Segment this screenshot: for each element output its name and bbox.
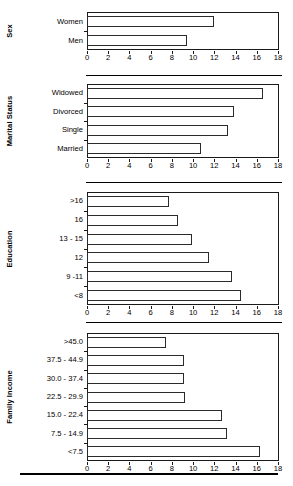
panel-separator-rule <box>86 182 282 183</box>
bar <box>87 196 169 207</box>
x-axis-tick-label: 8 <box>162 162 182 170</box>
bar <box>87 392 185 403</box>
bar <box>87 234 192 245</box>
x-axis-tick-label: 14 <box>226 54 246 62</box>
category-label: 13 - 15 <box>0 235 83 243</box>
bar <box>87 35 187 46</box>
x-axis-tick-label: 2 <box>98 309 118 317</box>
category-label: 37.5 - 44.9 <box>0 356 83 364</box>
category-label: 7.5 - 14.9 <box>0 430 83 438</box>
bar <box>87 125 228 136</box>
panel-separator-rule <box>86 322 282 323</box>
bar <box>87 373 184 384</box>
x-axis-tick-label: 18 <box>268 309 288 317</box>
x-axis-tick-label: 6 <box>141 162 161 170</box>
category-label: >16 <box>0 197 83 205</box>
y-axis-tick <box>84 249 87 250</box>
x-axis-tick-label: 16 <box>247 162 267 170</box>
plot-area <box>87 192 279 305</box>
bar <box>87 446 260 457</box>
bar <box>87 428 227 439</box>
x-axis-tick-label: 12 <box>204 465 224 473</box>
y-axis-tick <box>84 121 87 122</box>
bar <box>87 355 184 366</box>
x-axis-tick-label: 6 <box>141 54 161 62</box>
x-axis-tick-label: 12 <box>204 162 224 170</box>
x-axis-tick-label: 0 <box>77 465 97 473</box>
x-axis-tick-label: 6 <box>141 465 161 473</box>
category-label: 22.5 - 29.9 <box>0 393 83 401</box>
x-axis-tick-label: 16 <box>247 465 267 473</box>
bar <box>87 290 241 301</box>
x-axis-tick-label: 0 <box>77 309 97 317</box>
x-axis-tick-label: 8 <box>162 309 182 317</box>
y-axis-tick <box>84 211 87 212</box>
x-axis-tick-label: 2 <box>98 54 118 62</box>
category-label: <8 <box>0 292 83 300</box>
category-label: 16 <box>0 216 83 224</box>
category-label: Divorced <box>0 108 83 116</box>
bar <box>87 215 178 226</box>
y-axis-tick <box>84 267 87 268</box>
x-axis-tick-label: 8 <box>162 465 182 473</box>
bar <box>87 16 214 27</box>
y-axis-tick <box>84 351 87 352</box>
chart-figure: SexWomenMen024681012141618Marital Status… <box>0 0 293 486</box>
y-axis-tick <box>84 286 87 287</box>
x-axis-tick-label: 10 <box>183 162 203 170</box>
bar <box>87 271 232 282</box>
x-axis-tick-label: 2 <box>98 465 118 473</box>
x-axis-tick-label: 2 <box>98 162 118 170</box>
panel-separator-rule <box>86 75 282 76</box>
category-label: Women <box>0 18 83 26</box>
x-axis-tick-label: 6 <box>141 309 161 317</box>
x-axis-tick-label: 4 <box>119 465 139 473</box>
x-axis-tick-label: 18 <box>268 465 288 473</box>
x-axis-tick-label: 14 <box>226 465 246 473</box>
y-axis-tick <box>84 388 87 389</box>
y-axis-tick <box>84 31 87 32</box>
category-label: Single <box>0 126 83 134</box>
x-axis-tick-label: 8 <box>162 54 182 62</box>
category-label: 15.0 - 22.4 <box>0 411 83 419</box>
x-axis-tick-label: 4 <box>119 309 139 317</box>
category-label: >45.0 <box>0 338 83 346</box>
y-axis-tick <box>84 424 87 425</box>
category-label: Married <box>0 145 83 153</box>
category-label: <7.5 <box>0 448 83 456</box>
category-label: 30.0 - 37.4 <box>0 375 83 383</box>
x-axis-tick-label: 18 <box>268 54 288 62</box>
bar <box>87 410 222 421</box>
category-label: 12 <box>0 254 83 262</box>
x-axis-tick-label: 10 <box>183 465 203 473</box>
figure-bottom-rule <box>20 473 278 475</box>
x-axis-tick-label: 0 <box>77 54 97 62</box>
bar <box>87 143 201 154</box>
x-axis-tick-label: 0 <box>77 162 97 170</box>
x-axis-tick-label: 12 <box>204 54 224 62</box>
y-axis-tick <box>84 370 87 371</box>
category-label: Men <box>0 37 83 45</box>
panel-group-label-text: Marital Status <box>5 96 14 147</box>
y-axis-tick <box>84 140 87 141</box>
y-axis-tick <box>84 443 87 444</box>
x-axis-tick-label: 10 <box>183 309 203 317</box>
x-axis-tick-label: 14 <box>226 162 246 170</box>
category-label: 9 -11 <box>0 273 83 281</box>
y-axis-tick <box>84 103 87 104</box>
x-axis-tick-label: 12 <box>204 309 224 317</box>
x-axis-tick-label: 14 <box>226 309 246 317</box>
x-axis-tick-label: 16 <box>247 54 267 62</box>
bar <box>87 337 166 348</box>
bar <box>87 106 234 117</box>
x-axis-tick-label: 18 <box>268 162 288 170</box>
bar <box>87 88 263 99</box>
x-axis-tick-label: 10 <box>183 54 203 62</box>
x-axis-tick-label: 16 <box>247 309 267 317</box>
category-label: Widowed <box>0 89 83 97</box>
y-axis-tick <box>84 230 87 231</box>
x-axis-tick-label: 4 <box>119 54 139 62</box>
y-axis-tick <box>84 406 87 407</box>
x-axis-tick-label: 4 <box>119 162 139 170</box>
bar <box>87 252 209 263</box>
